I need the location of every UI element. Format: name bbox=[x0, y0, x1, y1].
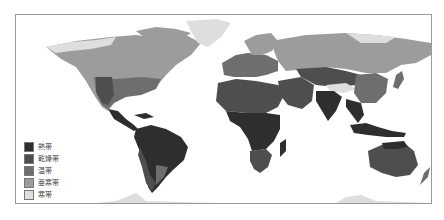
caribbean bbox=[134, 113, 154, 119]
antarctica bbox=[16, 193, 432, 204]
new-zealand bbox=[420, 167, 430, 185]
madagascar bbox=[280, 139, 286, 157]
legend-swatch-arid bbox=[24, 154, 34, 164]
legend-swatch-subarctic bbox=[24, 178, 34, 188]
legend-swatch-polar bbox=[24, 190, 34, 200]
africa-south bbox=[250, 149, 272, 173]
legend-label: 寒帯 bbox=[38, 189, 52, 201]
legend-item-tropical: 熱帯 bbox=[24, 141, 59, 153]
legend-item-arid: 乾燥帯 bbox=[24, 153, 59, 165]
europe bbox=[222, 53, 278, 77]
africa-arid bbox=[216, 79, 284, 113]
legend-swatch-tropical bbox=[24, 142, 34, 152]
legend-label: 温帯 bbox=[38, 165, 52, 177]
russia bbox=[271, 33, 431, 73]
africa-tropical bbox=[226, 111, 280, 151]
legend-item-polar: 寒帯 bbox=[24, 189, 59, 201]
japan bbox=[393, 71, 404, 89]
legend: 熱帯 乾燥帯 温帯 亜寒帯 寒帯 bbox=[24, 141, 59, 201]
legend-label: 乾燥帯 bbox=[38, 153, 59, 165]
india bbox=[316, 91, 342, 121]
central-america bbox=[108, 109, 138, 131]
indonesia bbox=[350, 123, 406, 137]
china bbox=[354, 73, 388, 103]
middle-east bbox=[278, 77, 314, 109]
world-map bbox=[15, 14, 432, 204]
legend-item-temperate: 温帯 bbox=[24, 165, 59, 177]
legend-swatch-temperate bbox=[24, 166, 34, 176]
legend-label: 亜寒帯 bbox=[38, 177, 59, 189]
world-map-svg bbox=[16, 15, 432, 204]
legend-label: 熱帯 bbox=[38, 141, 52, 153]
legend-item-subarctic: 亜寒帯 bbox=[24, 177, 59, 189]
